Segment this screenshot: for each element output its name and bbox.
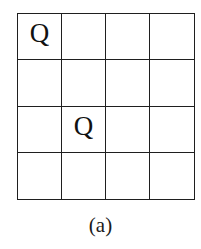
cell-r3-c4 [150, 107, 194, 153]
chess-board-grid: Q Q [17, 13, 195, 200]
cell-r4-c4 [150, 153, 194, 199]
cell-r3-c1 [18, 107, 62, 153]
queen-piece: Q [62, 111, 105, 141]
cell-r2-c2 [62, 60, 106, 106]
queen-piece: Q [18, 18, 61, 48]
cell-r2-c4 [150, 60, 194, 106]
cell-r2-c3 [106, 60, 150, 106]
cell-r2-c1 [18, 60, 62, 106]
cell-r4-c1 [18, 153, 62, 199]
cell-r4-c2 [62, 153, 106, 199]
figure-caption: (a) [0, 212, 201, 238]
cell-r1-c3 [106, 14, 150, 60]
cell-r3-c3 [106, 107, 150, 153]
cell-r1-c1: Q [18, 14, 62, 60]
cell-r1-c4 [150, 14, 194, 60]
cell-r1-c2 [62, 14, 106, 60]
cell-r3-c2: Q [62, 107, 106, 153]
cell-r4-c3 [106, 153, 150, 199]
